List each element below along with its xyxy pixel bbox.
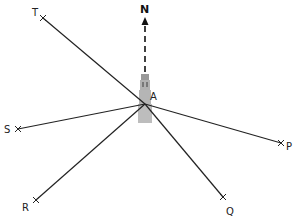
point-label-a: A — [150, 91, 157, 102]
bearing-lines — [18, 18, 281, 200]
line-a-p — [145, 104, 281, 143]
bearing-diagram: N A T S R Q P — [0, 0, 296, 221]
north-label: N — [140, 3, 149, 16]
line-a-t — [43, 18, 145, 104]
point-label-t: T — [31, 7, 39, 18]
point-label-s: S — [4, 124, 10, 135]
point-label-p: P — [286, 141, 292, 152]
point-label-r: R — [22, 202, 29, 213]
line-a-s — [18, 104, 145, 129]
point-label-q: Q — [226, 206, 234, 217]
line-a-q — [145, 104, 223, 197]
north-arrow: N — [140, 3, 149, 76]
line-a-r — [36, 104, 145, 200]
